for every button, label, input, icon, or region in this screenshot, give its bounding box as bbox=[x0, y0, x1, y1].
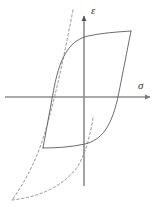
hysteresis-diagram: ε σ bbox=[0, 0, 162, 215]
backbone-envelope-curve bbox=[12, 10, 73, 200]
y-axis-label-epsilon: ε bbox=[91, 5, 95, 16]
backbone-envelope-lower-tail bbox=[12, 118, 93, 200]
hysteresis-plot-canvas bbox=[0, 0, 162, 215]
x-axis-label-sigma: σ bbox=[138, 80, 143, 91]
